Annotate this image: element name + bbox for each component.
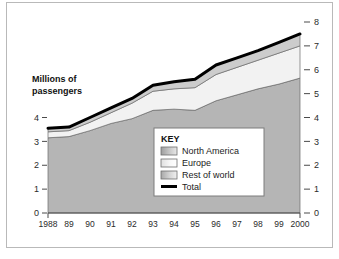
y-axis-left-tick-label: 2 (34, 160, 39, 170)
legend-label-europe: Europe (182, 158, 211, 168)
x-axis-tick-label: 93 (148, 219, 158, 229)
x-axis-tick-label: 2000 (291, 219, 310, 229)
legend-label-north-america: North America (182, 146, 239, 156)
x-axis-tick-label: 96 (211, 219, 221, 229)
x-axis-tick-label: 94 (169, 219, 179, 229)
x-axis-tick-label: 90 (85, 219, 95, 229)
legend-label-rest-of-world: Rest of world (182, 170, 235, 180)
y-axis-right-tick-label: 6 (314, 65, 319, 75)
x-axis-tick-label: 98 (253, 219, 263, 229)
x-axis-tick-label: 91 (106, 219, 116, 229)
legend-box: KEY North America Europe Rest of world T… (154, 128, 264, 196)
legend-swatch-total (161, 185, 177, 188)
legend-title: KEY (161, 134, 180, 144)
legend-swatch-europe (161, 159, 177, 167)
y-axis-right-tick-label: 0 (314, 208, 319, 218)
x-axis-tick-label: 99 (274, 219, 284, 229)
y-axis-right-tick-label: 3 (314, 137, 319, 147)
x-axis-tick-label: 1988 (39, 219, 58, 229)
y-axis-left-tick-label: 1 (34, 184, 39, 194)
y-axis-right-tick-label: 2 (314, 160, 319, 170)
x-axis-tick-label: 92 (127, 219, 137, 229)
x-axis-tick-label: 89 (64, 219, 74, 229)
y-axis-right-tick-label: 7 (314, 41, 319, 51)
legend-swatch-north-america (161, 147, 177, 155)
area-chart: 4321087654321019888990919293949596979899… (0, 0, 339, 259)
y-axis-right-tick-label: 5 (314, 89, 319, 99)
legend-swatch-rest-of-world (161, 171, 177, 179)
y-axis-right-tick-label: 8 (314, 17, 319, 27)
y-axis-title-line1: Millions of (32, 74, 77, 84)
figure-container: 4321087654321019888990919293949596979899… (0, 0, 339, 259)
y-axis-left-tick-label: 0 (34, 208, 39, 218)
x-axis-tick-label: 97 (232, 219, 242, 229)
y-axis-left-tick-label: 4 (34, 113, 39, 123)
y-axis-right-tick-label: 4 (314, 113, 319, 123)
x-axis-tick-label: 95 (190, 219, 200, 229)
legend-label-total: Total (182, 182, 201, 192)
y-axis-right-tick-label: 1 (314, 184, 319, 194)
y-axis-title-line2: passengers (32, 86, 82, 96)
y-axis-left-tick-label: 3 (34, 137, 39, 147)
